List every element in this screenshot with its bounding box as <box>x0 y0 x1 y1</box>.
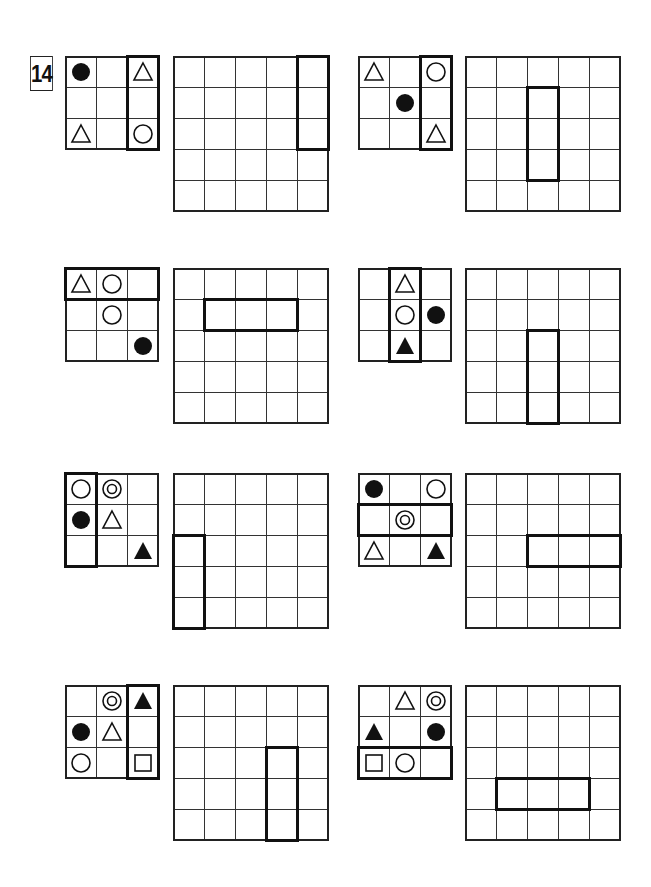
answer-cell[interactable] <box>297 180 329 212</box>
answer-cell[interactable] <box>558 566 590 598</box>
answer-cell[interactable] <box>496 716 528 748</box>
answer-cell[interactable] <box>173 685 205 717</box>
answer-cell[interactable] <box>558 56 590 88</box>
answer-cell[interactable] <box>558 268 590 300</box>
answer-cell[interactable] <box>235 747 267 779</box>
answer-cell[interactable] <box>266 180 298 212</box>
answer-cell[interactable] <box>496 597 528 629</box>
answer-cell[interactable] <box>527 392 559 424</box>
answer-cell[interactable] <box>527 268 559 300</box>
answer-cell[interactable] <box>527 149 559 181</box>
answer-cell[interactable] <box>496 392 528 424</box>
answer-cell[interactable] <box>204 149 236 181</box>
answer-cell[interactable] <box>235 330 267 362</box>
answer-cell[interactable] <box>235 149 267 181</box>
answer-cell[interactable] <box>465 809 497 841</box>
answer-cell[interactable] <box>527 778 559 810</box>
answer-cell[interactable] <box>527 473 559 505</box>
answer-cell[interactable] <box>465 361 497 393</box>
answer-cell[interactable] <box>235 473 267 505</box>
answer-cell[interactable] <box>173 361 205 393</box>
answer-cell[interactable] <box>558 87 590 119</box>
answer-cell[interactable] <box>589 299 621 331</box>
answer-cell[interactable] <box>297 56 329 88</box>
answer-cell[interactable] <box>527 685 559 717</box>
answer-cell[interactable] <box>173 778 205 810</box>
answer-cell[interactable] <box>266 504 298 536</box>
answer-cell[interactable] <box>465 504 497 536</box>
answer-cell[interactable] <box>235 87 267 119</box>
answer-cell[interactable] <box>235 56 267 88</box>
answer-cell[interactable] <box>204 566 236 598</box>
answer-cell[interactable] <box>173 535 205 567</box>
answer-cell[interactable] <box>527 504 559 536</box>
answer-cell[interactable] <box>527 299 559 331</box>
answer-cell[interactable] <box>589 56 621 88</box>
answer-cell[interactable] <box>465 535 497 567</box>
answer-cell[interactable] <box>465 392 497 424</box>
answer-cell[interactable] <box>558 716 590 748</box>
answer-cell[interactable] <box>266 809 298 841</box>
answer-cell[interactable] <box>266 747 298 779</box>
answer-cell[interactable] <box>204 268 236 300</box>
answer-cell[interactable] <box>558 685 590 717</box>
answer-cell[interactable] <box>266 566 298 598</box>
answer-cell[interactable] <box>589 566 621 598</box>
answer-cell[interactable] <box>204 473 236 505</box>
answer-cell[interactable] <box>527 330 559 362</box>
answer-cell[interactable] <box>204 361 236 393</box>
answer-cell[interactable] <box>266 330 298 362</box>
answer-cell[interactable] <box>204 747 236 779</box>
answer-cell[interactable] <box>527 361 559 393</box>
answer-cell[interactable] <box>465 473 497 505</box>
answer-cell[interactable] <box>496 685 528 717</box>
answer-cell[interactable] <box>204 392 236 424</box>
answer-cell[interactable] <box>297 87 329 119</box>
answer-cell[interactable] <box>527 87 559 119</box>
answer-cell[interactable] <box>297 716 329 748</box>
answer-cell[interactable] <box>173 118 205 150</box>
answer-cell[interactable] <box>465 685 497 717</box>
answer-cell[interactable] <box>235 535 267 567</box>
answer-cell[interactable] <box>235 566 267 598</box>
answer-cell[interactable] <box>496 747 528 779</box>
answer-cell[interactable] <box>204 535 236 567</box>
answer-cell[interactable] <box>204 330 236 362</box>
answer-cell[interactable] <box>297 504 329 536</box>
answer-cell[interactable] <box>173 330 205 362</box>
answer-cell[interactable] <box>204 809 236 841</box>
answer-cell[interactable] <box>235 685 267 717</box>
answer-cell[interactable] <box>173 56 205 88</box>
answer-cell[interactable] <box>496 180 528 212</box>
answer-cell[interactable] <box>465 56 497 88</box>
answer-cell[interactable] <box>465 268 497 300</box>
answer-cell[interactable] <box>589 685 621 717</box>
answer-cell[interactable] <box>589 597 621 629</box>
answer-cell[interactable] <box>173 597 205 629</box>
answer-cell[interactable] <box>297 535 329 567</box>
answer-cell[interactable] <box>204 180 236 212</box>
answer-cell[interactable] <box>173 180 205 212</box>
answer-cell[interactable] <box>558 535 590 567</box>
answer-cell[interactable] <box>266 597 298 629</box>
answer-cell[interactable] <box>297 685 329 717</box>
answer-cell[interactable] <box>235 299 267 331</box>
answer-cell[interactable] <box>589 268 621 300</box>
answer-cell[interactable] <box>589 504 621 536</box>
answer-cell[interactable] <box>297 268 329 300</box>
answer-cell[interactable] <box>204 504 236 536</box>
answer-cell[interactable] <box>204 87 236 119</box>
answer-cell[interactable] <box>266 149 298 181</box>
answer-cell[interactable] <box>204 299 236 331</box>
answer-cell[interactable] <box>266 392 298 424</box>
answer-cell[interactable] <box>297 747 329 779</box>
answer-cell[interactable] <box>496 56 528 88</box>
answer-cell[interactable] <box>204 56 236 88</box>
answer-cell[interactable] <box>235 504 267 536</box>
answer-cell[interactable] <box>496 268 528 300</box>
answer-cell[interactable] <box>496 87 528 119</box>
answer-cell[interactable] <box>235 268 267 300</box>
answer-cell[interactable] <box>173 504 205 536</box>
answer-cell[interactable] <box>204 685 236 717</box>
answer-cell[interactable] <box>465 747 497 779</box>
